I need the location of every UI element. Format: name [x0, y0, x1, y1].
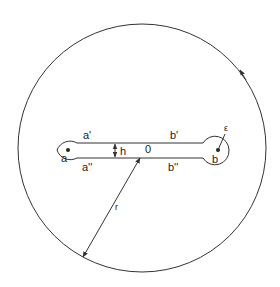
label-a-double-prime: a''	[82, 161, 92, 173]
contour-diagram: a b a' a'' b' b'' h 0 ε r	[0, 0, 280, 287]
label-b: b	[212, 153, 218, 165]
label-b-prime: b'	[170, 129, 178, 141]
circle-direction-arrow-icon	[240, 70, 246, 80]
label-origin: 0	[145, 143, 151, 155]
label-a: a	[61, 152, 68, 164]
label-b-double-prime: b''	[168, 161, 178, 173]
label-r: r	[115, 202, 118, 212]
label-epsilon: ε	[224, 123, 228, 133]
label-h: h	[120, 145, 126, 157]
label-a-prime: a'	[83, 129, 91, 141]
